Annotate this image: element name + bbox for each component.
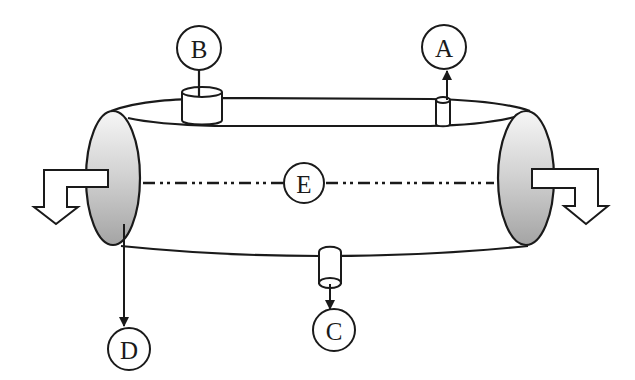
nozzle-b [182, 70, 222, 125]
label-c-text: C [326, 318, 343, 345]
nozzle-a [436, 71, 450, 126]
label-b: B [177, 26, 221, 70]
label-e: E [284, 163, 324, 203]
nozzle-c [319, 247, 341, 309]
label-c: C [313, 309, 355, 351]
vessel-diagram: A B C D E [0, 0, 635, 380]
nozzle-b-top [182, 87, 222, 97]
label-e-text: E [296, 171, 311, 198]
label-d-text: D [120, 337, 138, 364]
label-b-text: B [191, 36, 208, 63]
label-d: D [108, 328, 150, 370]
label-a: A [422, 25, 466, 69]
vessel-top-outer-edge [111, 98, 530, 111]
label-a-text: A [435, 35, 453, 62]
